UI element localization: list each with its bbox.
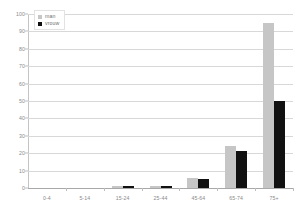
x-tick-mark-0-4 — [66, 188, 67, 191]
bar-man-65-74 — [225, 146, 236, 188]
legend-swatch-man-icon — [38, 15, 42, 19]
legend-item-vrouw: vrouw — [38, 20, 59, 27]
bar-man-25-44 — [150, 186, 161, 188]
bar-man-45-64 — [187, 178, 198, 188]
y-tick-label-10: 10 — [0, 168, 25, 174]
legend-label-man: man — [45, 13, 55, 20]
y-tick-label-30: 30 — [0, 133, 25, 139]
bar-chart: 0102030405060708090100 0-45-1415-2425-44… — [0, 0, 301, 217]
legend-swatch-vrouw-icon — [38, 22, 42, 26]
x-tick-label-25-44: 25-44 — [154, 195, 168, 201]
y-tick-label-100: 100 — [0, 11, 25, 17]
bar-vrouw-25-44 — [161, 186, 172, 188]
x-tick-mark-65-74 — [255, 188, 256, 191]
x-tick-label-45-64: 45-64 — [191, 195, 205, 201]
legend-label-vrouw: vrouw — [45, 20, 59, 27]
bar-vrouw-15-24 — [123, 186, 134, 188]
x-tick-label-15-24: 15-24 — [116, 195, 130, 201]
x-tick-mark-5-14 — [104, 188, 105, 191]
x-tick-mark-45-64 — [217, 188, 218, 191]
chart-legend: man vrouw — [34, 10, 65, 30]
bar-vrouw-45-64 — [198, 179, 209, 188]
y-tick-label-40: 40 — [0, 115, 25, 121]
y-tick-label-70: 70 — [0, 63, 25, 69]
plot-area — [28, 14, 293, 188]
x-tick-mark-15-24 — [142, 188, 143, 191]
x-tick-mark-25-44 — [179, 188, 180, 191]
x-tick-label-65-74: 65-74 — [229, 195, 243, 201]
y-tick-label-60: 60 — [0, 81, 25, 87]
gridline-0 — [28, 188, 293, 189]
y-tick-label-80: 80 — [0, 46, 25, 52]
x-tick-label-5-14: 5-14 — [79, 195, 90, 201]
y-tick-label-20: 20 — [0, 150, 25, 156]
legend-item-man: man — [38, 13, 59, 20]
bar-vrouw-65-74 — [236, 151, 247, 188]
x-tick-label-0-4: 0-4 — [43, 195, 51, 201]
y-tick-label-0: 0 — [0, 185, 25, 191]
x-tick-mark-75+ — [293, 188, 294, 191]
y-tick-label-90: 90 — [0, 28, 25, 34]
y-tick-label-50: 50 — [0, 98, 25, 104]
bar-man-75+ — [263, 23, 274, 188]
bar-vrouw-75+ — [274, 101, 285, 188]
x-tick-label-75+: 75+ — [270, 195, 279, 201]
bar-man-15-24 — [112, 186, 123, 188]
